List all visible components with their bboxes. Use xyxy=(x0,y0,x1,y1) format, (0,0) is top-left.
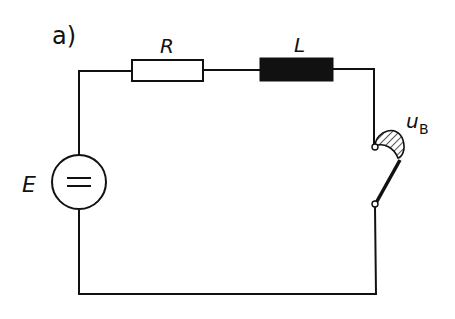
circuit-diagram: a) R L E u B xyxy=(0,0,455,319)
wire-left-top xyxy=(79,71,132,155)
wire-bottom xyxy=(79,207,376,294)
switch-blade xyxy=(376,160,400,203)
resistor: R xyxy=(132,34,203,81)
arc-hatched xyxy=(375,131,404,158)
source-label: E xyxy=(22,172,36,197)
panel-label: a) xyxy=(52,22,76,50)
resistor-label: R xyxy=(160,34,174,58)
wire-l-to-switch xyxy=(333,69,374,146)
switch-terminal-top xyxy=(372,144,378,150)
arc-voltage-label: u xyxy=(406,109,419,133)
wires xyxy=(79,69,376,294)
switch: u B xyxy=(372,109,429,207)
switch-terminal-bottom xyxy=(372,201,378,207)
inductor-label: L xyxy=(294,33,305,57)
arc-voltage-subscript: B xyxy=(419,121,429,137)
inductor: L xyxy=(260,33,333,81)
voltage-source: E xyxy=(22,155,106,209)
